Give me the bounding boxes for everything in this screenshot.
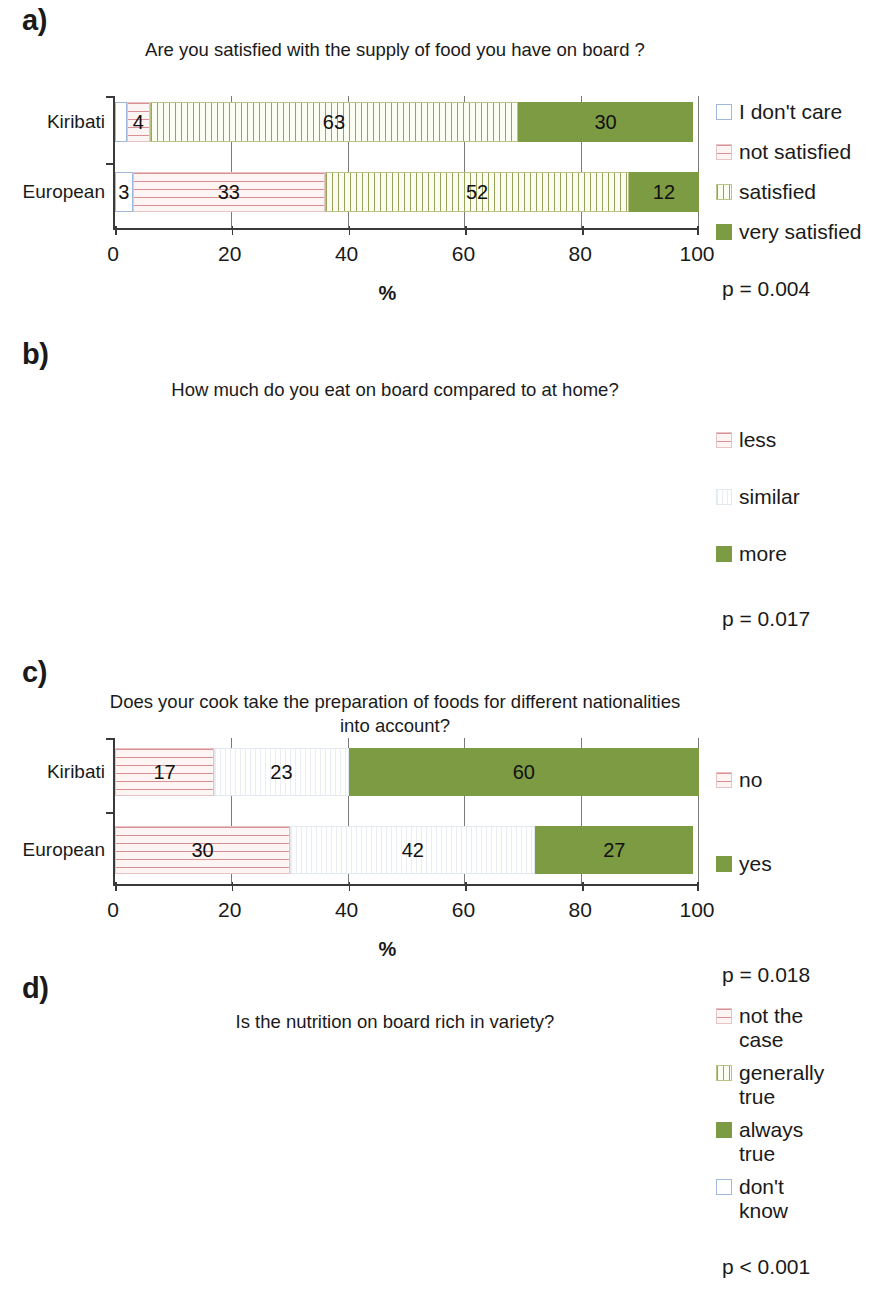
legend-swatch-i-dont-care-icon: [716, 104, 732, 120]
bar-segment: 12: [629, 172, 699, 212]
x-tick-label: 100: [679, 242, 714, 266]
bar-segment: 4: [127, 102, 150, 142]
bar-segment: 63: [150, 102, 518, 142]
legend-item-dont-know[interactable]: don't know: [716, 1175, 788, 1222]
legend-label: not satisfied: [739, 140, 851, 164]
legend-item-i-dont-care[interactable]: I don't care: [716, 100, 842, 124]
y-tick-mark: [106, 96, 115, 98]
legend-swatch-very-satisfied-icon: [716, 224, 732, 240]
legend-swatch-not-satisfied-icon: [716, 144, 732, 160]
bar-value-label: 33: [218, 182, 240, 202]
legend-swatch-not-the-case-icon: [716, 1008, 732, 1024]
legend-swatch-satisfied-icon: [716, 184, 732, 200]
bar-row: 246330: [115, 102, 699, 142]
panel-label: d): [22, 972, 48, 1005]
panel-label: c): [22, 656, 47, 689]
legend-label: satisfied: [739, 180, 816, 204]
legend-item-less[interactable]: less: [716, 428, 776, 452]
x-tick-label: 40: [335, 242, 358, 266]
bar-value-label: 3: [118, 182, 129, 202]
plot-area: 2463303335212: [113, 96, 697, 230]
chart-panel-d: d)Is the nutrition on board rich in vari…: [0, 950, 894, 1302]
panel-label: a): [22, 4, 47, 37]
legend-label: generally true: [739, 1061, 824, 1108]
bar-value-label: 63: [323, 112, 345, 132]
legend-swatch-less-icon: [716, 432, 732, 448]
x-tick-mark: [697, 226, 699, 235]
chart-panel-b: b)How much do you eat on board compared …: [0, 330, 894, 650]
x-tick-label: 60: [452, 242, 475, 266]
chart-title: Does your cook take the preparation of f…: [95, 690, 695, 737]
legend-label: more: [739, 542, 787, 566]
x-tick-mark: [349, 226, 351, 235]
p-value: p = 0.004: [722, 277, 810, 301]
x-tick-mark: [465, 226, 467, 235]
category-label-european: European: [23, 181, 105, 203]
legend-item-yes[interactable]: yes: [716, 852, 772, 876]
x-tick-label: 20: [218, 242, 241, 266]
bar-value-label: 30: [191, 840, 213, 860]
bar-segment: 2: [115, 102, 127, 142]
legend-item-not-the-case[interactable]: not the case: [716, 1004, 803, 1051]
x-tick-mark: [582, 226, 584, 235]
legend-swatch-more-icon: [716, 546, 732, 562]
chart-panel-c: c)Does your cook take the preparation of…: [0, 650, 894, 950]
legend-item-satisfied[interactable]: satisfied: [716, 180, 816, 204]
chart-panel-a: a)Are you satisfied with the supply of f…: [0, 0, 894, 330]
legend-label: similar: [739, 485, 800, 509]
x-tick-mark: [232, 226, 234, 235]
legend-item-generally-true[interactable]: generally true: [716, 1061, 824, 1108]
panel-label: b): [22, 338, 48, 371]
legend-swatch-no-icon: [716, 772, 732, 788]
legend-item-similar[interactable]: similar: [716, 485, 800, 509]
legend-label: not the case: [739, 1004, 803, 1051]
legend-item-not-satisfied[interactable]: not satisfied: [716, 140, 851, 164]
legend-label: always true: [739, 1118, 803, 1165]
x-tick-mark: [115, 226, 117, 235]
figure-page: a)Are you satisfied with the supply of f…: [0, 0, 894, 1302]
bar-value-label: 4: [133, 112, 144, 132]
p-value: p < 0.001: [722, 1255, 810, 1279]
bar-value-label: 17: [154, 762, 176, 782]
legend-swatch-generally-true-icon: [716, 1065, 732, 1081]
bar-value-label: 60: [513, 762, 535, 782]
legend-swatch-similar-icon: [716, 489, 732, 505]
x-axis-title: %: [379, 282, 397, 305]
legend-swatch-always-true-icon: [716, 1122, 732, 1138]
bar-value-label: 12: [653, 182, 675, 202]
p-value: p = 0.017: [722, 607, 810, 631]
bar-value-label: 30: [594, 112, 616, 132]
legend-item-more[interactable]: more: [716, 542, 787, 566]
legend-item-very-satisfied[interactable]: very satisfied: [716, 220, 862, 244]
bar-value-label: 27: [603, 840, 625, 860]
bar-value-label: 52: [466, 182, 488, 202]
chart-title: Is the nutrition on board rich in variet…: [95, 1010, 695, 1034]
x-tick-label: 80: [569, 242, 592, 266]
bar-segment: 3: [115, 172, 133, 212]
legend-label: very satisfied: [739, 220, 862, 244]
bar-value-label: 42: [402, 840, 424, 860]
bar-row: 3335212: [115, 172, 699, 212]
legend-label: less: [739, 428, 776, 452]
chart-title: How much do you eat on board compared to…: [95, 378, 695, 402]
legend-swatch-dont-know-icon: [716, 1179, 732, 1195]
category-label-kiribati: Kiribati: [47, 111, 105, 133]
chart-title: Are you satisfied with the supply of foo…: [95, 38, 695, 62]
bar-value-label: 23: [270, 762, 292, 782]
bar-segment: 33: [133, 172, 326, 212]
bar-segment: 52: [325, 172, 629, 212]
x-tick-label: 0: [107, 242, 119, 266]
legend-item-no[interactable]: no: [716, 768, 762, 792]
legend-label: no: [739, 768, 762, 792]
legend-label: don't know: [739, 1175, 788, 1222]
bar-segment: 30: [518, 102, 693, 142]
legend-label: I don't care: [739, 100, 842, 124]
legend-label: yes: [739, 852, 772, 876]
y-tick-mark: [106, 163, 115, 165]
legend-item-always-true[interactable]: always true: [716, 1118, 803, 1165]
legend-swatch-yes-icon: [716, 856, 732, 872]
